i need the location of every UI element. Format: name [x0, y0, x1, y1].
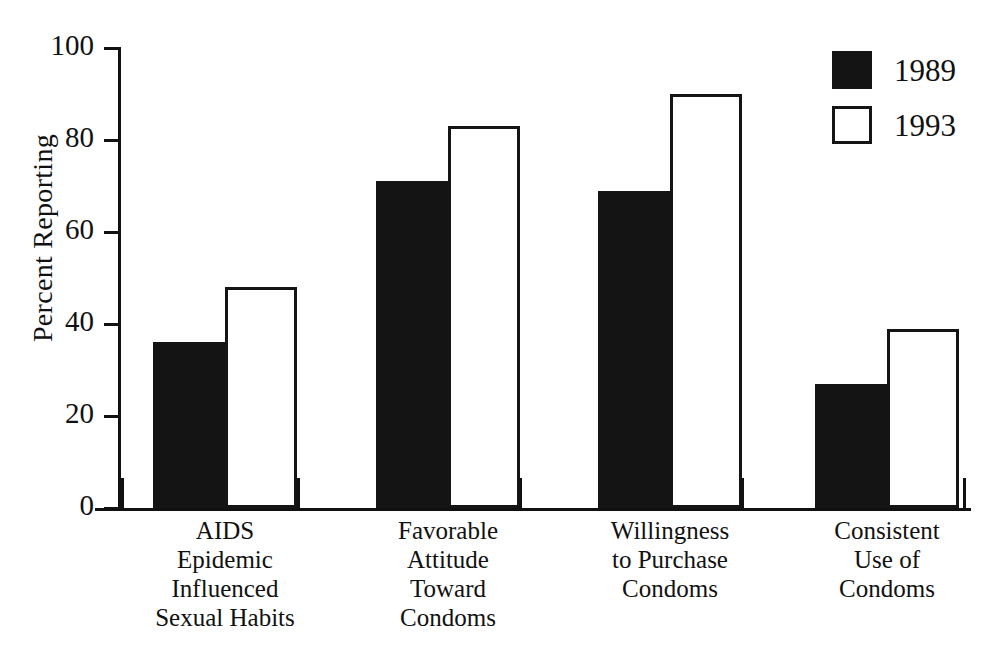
category-label-1: AIDSEpidemicInfluencedSexual Habits — [115, 516, 335, 632]
category-label-3: Willingnessto PurchaseCondoms — [560, 516, 780, 603]
category-label-line: Toward — [338, 574, 558, 603]
category-label-line: to Purchase — [560, 545, 780, 574]
category-label-line: Use of — [777, 545, 995, 574]
bar-1993-group-1 — [225, 287, 297, 508]
category-label-line: Influenced — [115, 574, 335, 603]
bar-1993-group-2 — [448, 126, 520, 508]
category-label-line: Willingness — [560, 516, 780, 545]
bar-1989-group-2 — [376, 181, 448, 508]
bar-chart: Percent Reporting 020406080100 AIDSEpide… — [0, 0, 995, 654]
x-axis-tick — [741, 478, 744, 509]
category-label-2: FavorableAttitudeTowardCondoms — [338, 516, 558, 632]
category-label-line: Condoms — [777, 574, 995, 603]
legend-label: 1993 — [894, 110, 956, 141]
bar-1989-group-1 — [153, 342, 225, 508]
category-label-line: Epidemic — [115, 545, 335, 574]
category-label-line: Sexual Habits — [115, 603, 335, 632]
legend-label: 1989 — [894, 55, 956, 86]
legend: 19891993 — [832, 50, 956, 160]
legend-item-1993: 1993 — [832, 105, 956, 145]
category-label-4: ConsistentUse ofCondoms — [777, 516, 995, 603]
x-axis-tick — [963, 478, 966, 509]
category-label-line: Condoms — [560, 574, 780, 603]
bar-1989-group-4 — [815, 384, 887, 508]
bar-1993-group-3 — [670, 94, 742, 508]
x-axis-tick — [121, 478, 124, 509]
category-label-line: Favorable — [338, 516, 558, 545]
legend-swatch-icon — [832, 106, 872, 144]
category-label-line: Attitude — [338, 545, 558, 574]
category-label-line: Consistent — [777, 516, 995, 545]
category-label-line: AIDS — [115, 516, 335, 545]
x-axis-tick — [519, 478, 522, 509]
legend-item-1989: 1989 — [832, 50, 956, 90]
category-label-line: Condoms — [338, 603, 558, 632]
x-axis-tick — [297, 478, 300, 509]
bar-1989-group-3 — [598, 191, 670, 508]
bar-1993-group-4 — [887, 329, 959, 508]
legend-swatch-icon — [832, 51, 872, 89]
x-axis-line — [95, 508, 971, 511]
